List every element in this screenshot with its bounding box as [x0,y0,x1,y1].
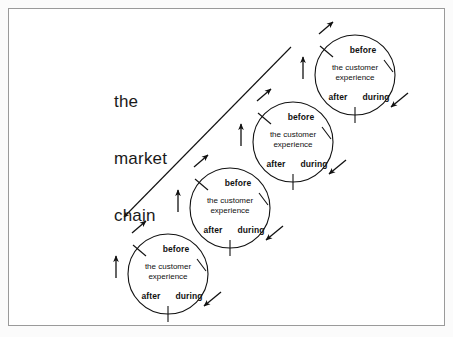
cycle-4-experience-line-2: experience [332,73,378,83]
cycle-1-experience-line-2: experience [145,272,191,282]
tick-during [384,60,393,72]
cycle-2-label-after: after [204,225,223,235]
title-line-1: the [114,92,167,111]
cycle-1-label-experience: the customer experience [145,262,191,282]
cycle-1-experience-line-1: the customer [145,262,191,272]
outbound-arrow-downleft [391,93,408,107]
cycle-4-label-after: after [329,92,348,102]
cycle-2-label-before: before [225,178,252,188]
cycle-3-experience-line-2: experience [270,140,316,150]
cycle-3-experience-line-1: the customer [270,130,316,140]
cycle-3-label-before: before [288,112,315,122]
diagram-title: the market chain [114,54,167,263]
tick-during [259,193,268,205]
cycle-2-label-experience: the customer experience [207,196,253,216]
title-line-2: market [114,149,167,168]
cycle-1-label-during: during [175,291,202,301]
cycle-3-label-during: during [300,159,327,169]
diagram-canvas [0,0,453,337]
tick-during [197,259,206,271]
feedback-arrow-upright [257,89,271,101]
title-line-3: chain [114,206,167,225]
feedback-arrow-upright [319,22,333,34]
cycle-4-label-during: during [362,92,389,102]
feedback-arrow-upright [194,155,208,167]
outbound-arrow-downleft [204,292,221,306]
tick-during [322,127,331,139]
cycle-2-label-during: during [237,225,264,235]
outbound-arrow-downleft [266,226,283,240]
outbound-arrow-downleft [329,160,346,174]
cycle-4-label-experience: the customer experience [332,63,378,83]
diagram-page: the market chain before the customer exp… [0,0,453,337]
cycle-3-label-experience: the customer experience [270,130,316,150]
cycle-4-experience-line-1: the customer [332,63,378,73]
cycle-4-label-before: before [350,45,377,55]
cycle-3-label-after: after [267,159,286,169]
cycle-1-label-after: after [142,291,161,301]
cycle-2-experience-line-2: experience [207,206,253,216]
cycle-1-label-before: before [163,244,190,254]
cycle-2-experience-line-1: the customer [207,196,253,206]
